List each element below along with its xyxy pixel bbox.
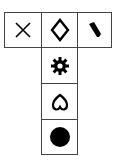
circle-tool-button[interactable]: Filled circle — [41, 119, 78, 155]
gear-icon — [50, 56, 70, 76]
heart-tool-button[interactable]: Heart — [41, 83, 78, 120]
diamond-tool-button[interactable]: Diamond — [41, 12, 78, 48]
diamond-outline-icon — [49, 18, 71, 42]
heart-outline-icon — [50, 92, 70, 112]
brush-icon — [87, 21, 103, 39]
delete-tool-button[interactable]: Delete — [4, 12, 42, 48]
x-icon — [13, 20, 33, 40]
brush-tool-button[interactable]: Brush — [77, 12, 112, 48]
filled-circle-icon — [49, 126, 71, 148]
gear-tool-button[interactable]: Gear — [41, 47, 78, 84]
